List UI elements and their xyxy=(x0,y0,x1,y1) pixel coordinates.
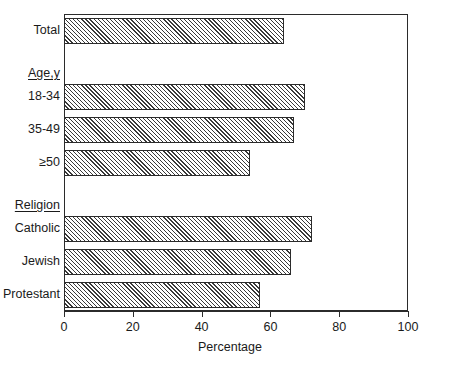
x-tick-100 xyxy=(408,311,409,317)
bar-protestant xyxy=(64,282,260,308)
x-tick-label-100: 100 xyxy=(398,320,419,334)
category-label-catholic: Catholic xyxy=(0,222,60,235)
bar-catholic xyxy=(64,216,312,242)
x-axis-title: Percentage xyxy=(0,340,460,354)
category-label-total: Total xyxy=(0,24,60,37)
x-tick-40 xyxy=(202,311,203,317)
category-label-jewish: Jewish xyxy=(0,255,60,268)
bar-jewish xyxy=(64,249,291,275)
group-header-age-y: Age,y xyxy=(0,67,60,80)
x-tick-label-40: 40 xyxy=(195,320,209,334)
bar-35-49 xyxy=(64,117,294,143)
bars-layer xyxy=(64,14,408,311)
x-tick-label-0: 0 xyxy=(61,320,68,334)
category-label-50: ≥50 xyxy=(0,156,60,169)
x-tick-label-60: 60 xyxy=(263,320,277,334)
x-tick-60 xyxy=(270,311,271,317)
category-label-35-49: 35-49 xyxy=(0,123,60,136)
x-tick-label-80: 80 xyxy=(332,320,346,334)
x-tick-0 xyxy=(64,311,65,317)
category-label-protestant: Protestant xyxy=(0,288,60,301)
bar-total xyxy=(64,18,284,44)
bar-50 xyxy=(64,150,250,176)
bar-chart: TotalAge,y18-3435-49≥50ReligionCatholicJ… xyxy=(0,0,460,365)
bar-18-34 xyxy=(64,84,305,110)
group-header-religion: Religion xyxy=(0,199,60,212)
category-label-18-34: 18-34 xyxy=(0,90,60,103)
x-tick-20 xyxy=(133,311,134,317)
x-tick-label-20: 20 xyxy=(126,320,140,334)
x-axis-line xyxy=(64,311,408,312)
category-labels: TotalAge,y18-3435-49≥50ReligionCatholicJ… xyxy=(0,14,60,311)
x-tick-80 xyxy=(339,311,340,317)
